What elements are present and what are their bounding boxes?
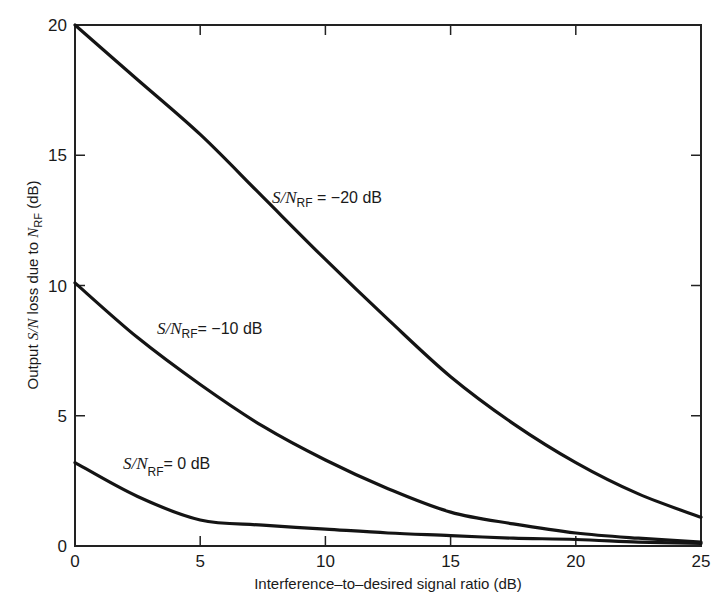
x-axis-label: Interference–to–desired signal ratio (dB… [254,575,522,592]
x-tick-label: 0 [70,552,79,571]
y-tick-label: 0 [58,537,67,556]
curve-labels: S/NRF = −20 dBS/NRF= −10 dBS/NRF= 0 dB [123,188,382,479]
x-tick-label: 10 [316,552,335,571]
x-tick-label: 5 [195,552,204,571]
x-tick-label: 15 [441,552,460,571]
curve-label: S/NRF= 0 dB [123,454,210,479]
x-tick-label: 25 [692,552,711,571]
x-tick-label: 20 [566,552,585,571]
y-axis-label: Output S/N loss due to NRF (dB) [24,181,44,390]
axis-ticks: 051015202505101520 [48,16,710,571]
y-tick-label: 10 [48,277,67,296]
curve-label: S/NRF= −10 dB [157,319,263,341]
chart: 051015202505101520 S/NRF = −20 dBS/NRF= … [0,0,727,607]
y-tick-label: 5 [58,407,67,426]
curve-snr-minus20 [75,25,701,517]
curve-label: S/NRF = −20 dB [272,188,382,210]
y-tick-label: 20 [48,16,67,35]
y-tick-label: 15 [48,146,67,165]
curve-snr-0 [75,463,701,544]
